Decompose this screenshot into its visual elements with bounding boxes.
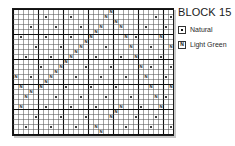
cell-symbol-natural bbox=[55, 26, 57, 28]
natural-symbol-swatch bbox=[178, 26, 186, 34]
cell-symbol-natural bbox=[120, 56, 122, 58]
cell-symbol-natural bbox=[70, 106, 72, 108]
cell-symbol-light-green: N bbox=[59, 64, 62, 69]
cell-symbol-natural bbox=[170, 66, 172, 68]
cell-symbol-natural bbox=[165, 26, 167, 28]
cell-symbol-light-green: N bbox=[69, 54, 72, 59]
cell-symbol-light-green: N bbox=[89, 34, 92, 39]
cell-symbol-natural bbox=[110, 66, 112, 68]
light-green-symbol-swatch: N bbox=[178, 41, 186, 49]
cell-symbol-natural bbox=[95, 56, 97, 58]
legend-row-light-green: N Light Green bbox=[178, 40, 235, 49]
cell-symbol-light-green: N bbox=[24, 94, 27, 99]
cell-symbol-natural bbox=[150, 66, 152, 68]
cell-symbol-light-green: N bbox=[154, 94, 157, 99]
cell-symbol-light-green: N bbox=[39, 84, 42, 89]
cell-symbol-light-green: N bbox=[64, 59, 67, 64]
cell-symbol-light-green: N bbox=[84, 39, 87, 44]
pattern-chart-page: NNNNNNNNNNNNNNNNNNNNNNNNNNNNNNNNNNNNNN B… bbox=[0, 0, 235, 146]
cell-symbol-light-green: N bbox=[159, 34, 162, 39]
cell-symbol-natural bbox=[125, 126, 127, 128]
cell-symbol-light-green: N bbox=[144, 74, 147, 79]
grid-canvas: NNNNNNNNNNNNNNNNNNNNNNNNNNNNNNNNNNNNNN bbox=[13, 9, 174, 136]
cell-symbol-light-green: N bbox=[49, 74, 52, 79]
cell-symbol-natural bbox=[155, 16, 157, 18]
cell-symbol-light-green: N bbox=[139, 64, 142, 69]
grid-frame: NNNNNNNNNNNNNNNNNNNNNNNNNNNNNNNNNNNNNN bbox=[12, 8, 174, 136]
cell-symbol-light-green: N bbox=[149, 84, 152, 89]
cell-symbol-natural bbox=[85, 116, 87, 118]
cell-symbol-light-green: N bbox=[119, 24, 122, 29]
cell-symbol-natural bbox=[80, 26, 82, 28]
legend-row-natural: Natural bbox=[178, 25, 235, 34]
cell-symbol-light-green: N bbox=[169, 84, 172, 89]
legend: BLOCK 15 Natural N Light Green bbox=[178, 6, 235, 49]
cell-symbol-light-green: N bbox=[99, 129, 102, 134]
cell-symbol-light-green: N bbox=[14, 74, 17, 79]
cell-symbol-light-green: N bbox=[114, 109, 117, 114]
cell-symbol-natural bbox=[145, 26, 147, 28]
cell-symbol-light-green: N bbox=[74, 49, 77, 54]
cell-symbol-natural bbox=[30, 26, 32, 28]
cell-symbol-natural bbox=[160, 56, 162, 58]
cell-symbol-natural bbox=[25, 126, 27, 128]
cell-symbol-light-green: N bbox=[99, 24, 102, 29]
cell-symbol-light-green: N bbox=[134, 54, 137, 59]
cell-symbol-natural bbox=[25, 56, 27, 58]
cell-symbol-natural bbox=[45, 36, 47, 38]
cell-symbol-light-green: N bbox=[54, 69, 57, 74]
cell-symbol-natural bbox=[135, 36, 137, 38]
cell-symbol-natural bbox=[70, 16, 72, 18]
cell-symbol-light-green: N bbox=[19, 104, 22, 109]
cell-symbol-light-green: N bbox=[114, 19, 117, 24]
cell-symbol-natural bbox=[105, 96, 107, 98]
cell-symbol-light-green: N bbox=[104, 14, 107, 19]
cell-symbol-natural bbox=[30, 76, 32, 78]
cell-symbol-natural bbox=[85, 66, 87, 68]
cell-symbol-light-green: N bbox=[94, 124, 97, 129]
cell-symbol-natural bbox=[35, 46, 37, 48]
cell-symbol-light-green: N bbox=[19, 84, 22, 89]
cell-symbol-natural bbox=[125, 76, 127, 78]
cell-symbol-natural bbox=[40, 66, 42, 68]
cell-symbol-light-green: N bbox=[109, 9, 112, 14]
cell-symbol-natural bbox=[35, 116, 37, 118]
cell-symbol-natural bbox=[150, 126, 152, 128]
cell-symbol-natural bbox=[75, 76, 77, 78]
cell-symbol-light-green: N bbox=[169, 44, 172, 49]
cell-symbol-light-green: N bbox=[44, 79, 47, 84]
cell-symbol-natural bbox=[60, 116, 62, 118]
cell-symbol-natural bbox=[70, 36, 72, 38]
cell-symbol-natural bbox=[140, 106, 142, 108]
quilt-pattern-chart: NNNNNNNNNNNNNNNNNNNNNNNNNNNNNNNNNNNNNN bbox=[12, 8, 174, 136]
cell-symbol-natural bbox=[60, 46, 62, 48]
legend-title: BLOCK 15 bbox=[178, 6, 235, 19]
cell-symbol-natural bbox=[155, 116, 157, 118]
cell-symbol-light-green: N bbox=[129, 44, 132, 49]
cell-symbol-natural bbox=[90, 86, 92, 88]
cell-symbol-natural bbox=[20, 36, 22, 38]
dot-icon bbox=[181, 29, 183, 31]
cell-symbol-natural bbox=[165, 96, 167, 98]
cell-symbol-light-green: N bbox=[29, 89, 32, 94]
cell-symbol-natural bbox=[65, 86, 67, 88]
cell-symbol-natural bbox=[100, 76, 102, 78]
cell-symbol-natural bbox=[55, 96, 57, 98]
cell-symbol-natural bbox=[115, 86, 117, 88]
legend-label-light-green: Light Green bbox=[190, 40, 227, 49]
cell-symbol-natural bbox=[135, 116, 137, 118]
cell-symbol-light-green: N bbox=[79, 44, 82, 49]
cell-symbol-light-green: N bbox=[159, 104, 162, 109]
cell-symbol-light-green: N bbox=[119, 104, 122, 109]
cell-symbol-natural bbox=[170, 16, 172, 18]
cell-symbol-natural bbox=[80, 96, 82, 98]
cell-symbol-natural bbox=[165, 76, 167, 78]
legend-label-natural: Natural bbox=[190, 25, 213, 34]
cell-symbol-light-green: N bbox=[124, 34, 127, 39]
cell-symbol-natural bbox=[45, 16, 47, 18]
cell-symbol-natural bbox=[130, 96, 132, 98]
cell-symbol-natural bbox=[95, 106, 97, 108]
cell-symbol-natural bbox=[170, 126, 172, 128]
cell-symbol-natural bbox=[50, 126, 52, 128]
cell-symbol-natural bbox=[45, 106, 47, 108]
